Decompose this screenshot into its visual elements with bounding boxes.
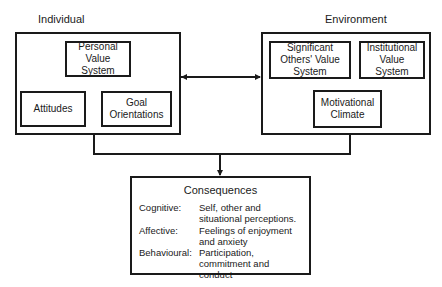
consequence-value: Participation, commitment and conduct: [199, 247, 304, 280]
significant-others-label: Significant Others' Value System: [273, 42, 347, 78]
motivational-climate-label: Motivational Climate: [317, 97, 378, 121]
institutional-value-system-label: Institutional Value System: [363, 42, 421, 78]
consequence-key: Behavioural:: [139, 247, 199, 258]
goal-orientations-box: Goal Orientations: [101, 91, 172, 127]
institutional-value-system-box: Institutional Value System: [359, 41, 425, 79]
personal-value-system-label: Personal Value System: [69, 41, 127, 77]
attitudes-label: Attitudes: [34, 103, 73, 115]
attitudes-box: Attitudes: [20, 91, 86, 127]
consequence-value: Self, other and situational perceptions.: [199, 202, 304, 224]
consequences-box: Consequences Cognitive: Self, other and …: [130, 176, 311, 275]
goal-orientations-label: Goal Orientations: [105, 97, 168, 121]
consequence-key: Affective:: [139, 225, 199, 236]
personal-value-system-box: Personal Value System: [65, 41, 131, 77]
motivational-climate-box: Motivational Climate: [313, 90, 382, 128]
consequence-value: Feelings of enjoyment and anxiety: [199, 225, 304, 247]
individual-title: Individual: [38, 13, 84, 25]
environment-title: Environment: [325, 13, 387, 25]
consequence-key: Cognitive:: [139, 202, 199, 213]
consequences-title: Consequences: [132, 184, 309, 196]
significant-others-box: Significant Others' Value System: [269, 41, 351, 79]
